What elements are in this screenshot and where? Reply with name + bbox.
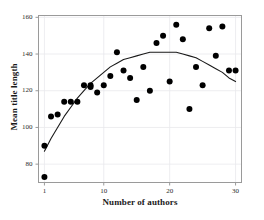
y-tick-label: 160 [13, 13, 33, 21]
x-tick-label: 20 [160, 187, 180, 195]
y-tick-label: 100 [13, 123, 33, 131]
plot-frame [39, 16, 242, 183]
y-tick-label: 80 [13, 160, 33, 168]
x-axis-title: Number of authors [38, 197, 242, 207]
x-tick-label: 1 [34, 187, 54, 195]
grid-lines [39, 16, 242, 183]
y-tick-label: 120 [13, 86, 33, 94]
scatter-plot-figure: Mean title length Number of authors 8010… [0, 0, 264, 220]
x-tick-label: 10 [94, 187, 114, 195]
data-points [41, 22, 238, 180]
x-tick-label: 30 [226, 187, 246, 195]
y-tick-label: 140 [13, 50, 33, 58]
